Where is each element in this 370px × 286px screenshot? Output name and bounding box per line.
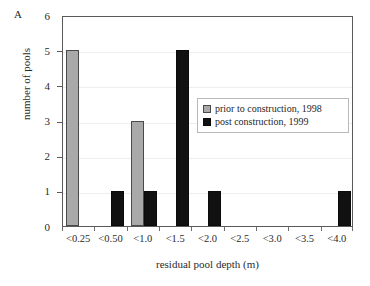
y-axis-tick-mark [57,157,62,158]
x-axis-title: residual pool depth (m) [62,258,353,271]
bar [208,191,221,226]
x-axis-tick-label: <1.0 [127,233,159,245]
bar [338,191,351,226]
x-axis-tick-label: <0.25 [62,233,94,245]
legend-item: post construction, 1999 [203,115,344,128]
x-axis-tick-mark [288,227,289,231]
y-axis-tick-mark [57,192,62,193]
bar [176,50,189,226]
x-axis-tick-mark [94,227,95,231]
bar [111,191,124,226]
x-axis-tick-label: <2.5 [224,233,256,245]
bar-group [128,17,160,226]
y-axis-tick-mark [57,122,62,123]
bar [131,121,144,227]
y-axis-tick-mark [57,86,62,87]
legend: prior to construction, 1998post construc… [197,98,349,133]
x-axis-tick-mark [191,227,192,231]
x-axis-tick-label: <4.0 [321,233,353,245]
x-axis-tick-mark [127,227,128,231]
black-square-swatch [203,118,211,126]
y-axis-tick-label: 0 [4,222,50,233]
bar [66,50,79,226]
x-axis-tick-label: <2.0 [191,233,223,245]
x-axis-tick-labels: <0.25<0.50<1.0<1.5<2.0<2.5<3.0<3.5<4.0 [62,233,353,251]
x-axis-tick-mark [62,227,63,231]
y-axis-tick-label: 2 [4,151,50,162]
x-axis-tick-mark [352,227,353,231]
bar-group [95,17,127,226]
gray-square-swatch [203,105,211,113]
x-axis-tick-mark [159,227,160,231]
x-axis-tick-label: <3.5 [288,233,320,245]
y-axis-tick-mark [57,51,62,52]
y-axis-title: number of pools [20,18,32,150]
legend-item: prior to construction, 1998 [203,102,344,115]
bar-group [160,17,192,226]
bar-group [63,17,95,226]
legend-item-label: prior to construction, 1998 [215,103,322,114]
x-axis-tick-label: <0.50 [94,233,126,245]
figure-panel-a: A 0123456 number of pools <0.25<0.50<1.0… [0,0,370,286]
bar [144,191,157,226]
legend-item-label: post construction, 1999 [215,116,309,127]
x-axis-tick-mark [256,227,257,231]
y-axis-tick-label: 1 [4,186,50,197]
x-axis-tick-label: <3.0 [256,233,288,245]
x-axis-tick-mark [224,227,225,231]
x-axis-tick-label: <1.5 [159,233,191,245]
x-axis-tick-mark [321,227,322,231]
